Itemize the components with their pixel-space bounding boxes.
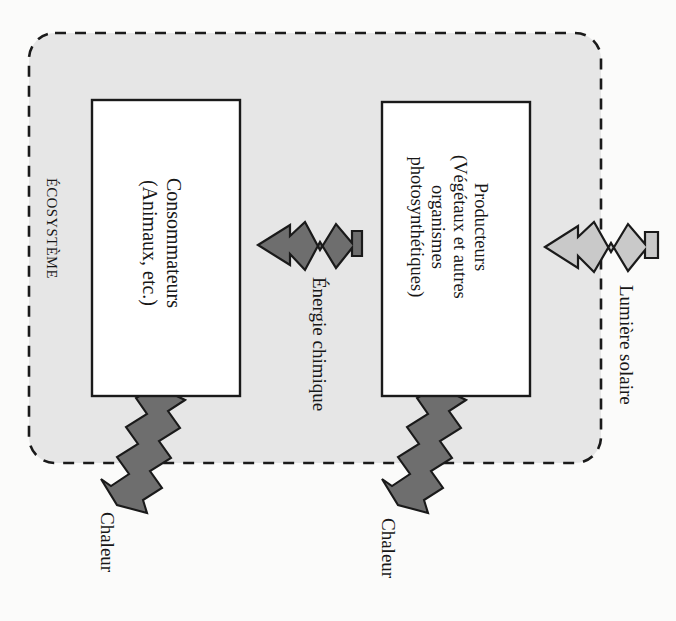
lumiere-solaire-label: Lumière solaire <box>615 285 637 405</box>
ecosystem-label: ÉCOSYSTÈME <box>43 178 60 279</box>
producteurs-line-1: Producteurs <box>470 155 491 299</box>
chaleur-consommateurs-label: Chaleur <box>96 512 118 572</box>
producteurs-box-text: Producteurs (Végétaux et autres organism… <box>405 155 491 299</box>
consommateurs-line-2: (Animaux, etc.) <box>138 178 162 308</box>
producteurs-line-4: photosynthétiques) <box>405 155 426 299</box>
chaleur-producteurs-label: Chaleur <box>377 518 399 578</box>
energie-chimique-label: Énergie chimique <box>308 277 330 411</box>
producteurs-line-2: (Végétaux et autres <box>448 155 469 299</box>
producteurs-line-3: organismes <box>427 155 448 299</box>
consommateurs-box-text: Consommateurs (Animaux, etc.) <box>138 178 185 308</box>
diagram-canvas: ÉCOSYSTÈME Consommateurs (Animaux, etc.)… <box>0 0 676 621</box>
consommateurs-line-1: Consommateurs <box>161 178 185 308</box>
